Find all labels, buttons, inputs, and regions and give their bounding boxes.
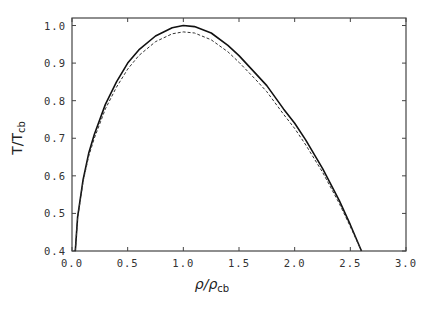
- x-axis-label: ρ/ρcb: [195, 276, 229, 294]
- axis-ticks: [72, 18, 406, 251]
- y-tick-labels: 0.40.50.60.70.80.91.0: [44, 20, 66, 257]
- x-tick-label: 0.5: [117, 257, 139, 269]
- chart: 0.00.51.01.52.02.53.0 0.40.50.60.70.80.9…: [0, 0, 437, 309]
- y-tick-label: 0.5: [44, 207, 66, 219]
- x-tick-label: 2.5: [339, 257, 361, 269]
- x-tick-labels: 0.00.51.01.52.02.53.0: [61, 257, 417, 269]
- solid-curve: [75, 26, 361, 252]
- y-tick-label: 0.7: [44, 132, 66, 144]
- dashed-curve: [75, 32, 361, 251]
- x-tick-label: 3.0: [395, 257, 417, 269]
- y-tick-label: 0.6: [44, 170, 66, 182]
- y-tick-label: 0.8: [44, 95, 66, 107]
- x-tick-label: 1.5: [228, 257, 250, 269]
- y-axis-label: T/Tcb: [9, 121, 27, 156]
- x-tick-label: 1.0: [172, 257, 194, 269]
- y-tick-label: 0.9: [44, 57, 66, 69]
- x-tick-label: 0.0: [61, 257, 83, 269]
- y-tick-label: 0.4: [44, 245, 66, 257]
- x-tick-label: 2.0: [284, 257, 306, 269]
- plot-frame: [72, 18, 406, 251]
- y-tick-label: 1.0: [44, 20, 66, 32]
